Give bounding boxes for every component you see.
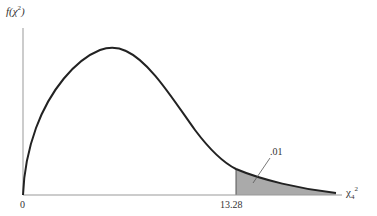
y-axis-label: f(χ2) — [6, 4, 25, 17]
x-axis-label: χ42 — [346, 185, 358, 201]
x-tick-critical-value: 13.28 — [220, 199, 243, 210]
tail-area-label: .01 — [270, 146, 283, 157]
density-curve — [23, 48, 336, 195]
x-tick-zero: 0 — [20, 199, 25, 210]
chi-square-chart — [0, 0, 377, 216]
